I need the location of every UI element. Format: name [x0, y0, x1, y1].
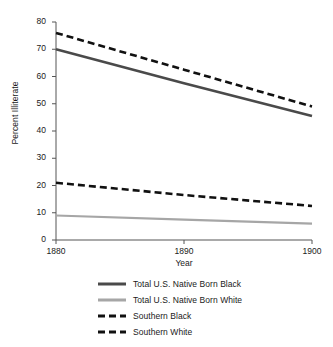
- y-tick-label: 50: [22, 99, 46, 108]
- illiteracy-line-chart: Percent Illiterate Year 0102030405060708…: [0, 0, 333, 347]
- y-tick-label: 70: [22, 44, 46, 53]
- y-tick-label: 40: [22, 126, 46, 135]
- legend-swatch-icon: [98, 327, 126, 337]
- y-tick-label: 80: [22, 17, 46, 26]
- x-tick-label: 1880: [33, 247, 79, 256]
- legend-item[interactable]: Southern White: [98, 324, 333, 340]
- y-tick-label: 30: [22, 153, 46, 162]
- x-tick-label: 1900: [289, 247, 333, 256]
- legend-item[interactable]: Total U.S. Native Born White: [98, 292, 333, 308]
- x-tick-label: 1890: [161, 247, 207, 256]
- data-series: [56, 33, 312, 224]
- plot-svg: [0, 0, 333, 272]
- series-line: [56, 33, 312, 107]
- plot-area: Percent Illiterate Year 0102030405060708…: [0, 0, 333, 272]
- y-axis-title: Percent Illiterate: [10, 58, 20, 168]
- legend-label: Total U.S. Native Born Black: [133, 279, 241, 289]
- legend-label: Southern White: [133, 327, 192, 337]
- axis-ticks: [52, 22, 312, 244]
- chart-legend: Total U.S. Native Born BlackTotal U.S. N…: [0, 276, 333, 340]
- legend-swatch-icon: [98, 311, 126, 321]
- x-axis-title: Year: [56, 258, 312, 268]
- legend-swatch-icon: [98, 295, 126, 305]
- y-tick-label: 0: [22, 235, 46, 244]
- legend-item[interactable]: Total U.S. Native Born Black: [98, 276, 333, 292]
- legend-label: Total U.S. Native Born White: [133, 295, 242, 305]
- series-line: [56, 183, 312, 206]
- axis-lines: [56, 22, 312, 240]
- series-line: [56, 49, 312, 116]
- y-tick-label: 10: [22, 208, 46, 217]
- y-tick-label: 60: [22, 72, 46, 81]
- series-line: [56, 215, 312, 223]
- legend-item[interactable]: Southern Black: [98, 308, 333, 324]
- y-tick-label: 20: [22, 181, 46, 190]
- legend-swatch-icon: [98, 279, 126, 289]
- legend-label: Southern Black: [133, 311, 191, 321]
